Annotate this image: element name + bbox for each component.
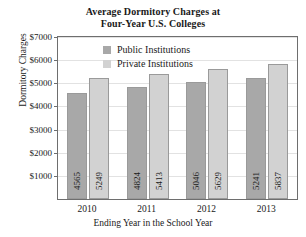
bar[interactable]: 5046 (186, 82, 206, 199)
x-axis-tick-label: 2013 (257, 204, 276, 214)
bar[interactable]: 5249 (89, 78, 109, 199)
bar-value-label: 5241 (251, 172, 261, 190)
y-axis-tick (54, 83, 58, 84)
y-axis-tick (54, 37, 58, 38)
legend-swatch-public (103, 46, 111, 54)
y-axis-tick-label: $2000 (30, 148, 53, 158)
y-axis-tick-label: $6000 (30, 55, 53, 65)
legend-label-public: Public Institutions (117, 44, 190, 55)
x-axis-tick-label: 2011 (137, 204, 156, 214)
chart-legend: Public Institutions Private Institutions (103, 43, 193, 71)
bar-group: 52415837 (237, 37, 297, 199)
bar-value-label: 4565 (72, 172, 82, 190)
x-axis-tick-label: 2012 (197, 204, 216, 214)
bar-value-label: 4824 (132, 172, 142, 190)
legend-swatch-private (103, 60, 111, 68)
bar-value-label: 5837 (273, 172, 283, 190)
bar[interactable]: 4824 (127, 87, 147, 199)
y-axis-tick-label: $5000 (30, 78, 53, 88)
bar[interactable]: 5629 (208, 69, 228, 199)
bar-value-label: 5413 (154, 172, 164, 190)
bar[interactable]: 4565 (67, 93, 87, 199)
y-axis-tick-label: $4000 (30, 101, 53, 111)
bar-value-label: 5046 (191, 172, 201, 190)
chart-title: Average Dormitory Charges at Four-Year U… (0, 6, 306, 29)
y-axis-tick-label: $3000 (30, 125, 53, 135)
legend-label-private: Private Institutions (117, 58, 193, 69)
y-axis-title: Dormitory Charges (18, 0, 28, 140)
chart-figure: Average Dormitory Charges at Four-Year U… (0, 0, 306, 237)
legend-item-public: Public Institutions (103, 43, 193, 56)
bar-value-label: 5249 (94, 172, 104, 190)
y-axis-tick (54, 153, 58, 154)
y-axis-tick-label: $1000 (30, 171, 53, 181)
y-axis-tick (54, 60, 58, 61)
y-axis-tick-label: $7000 (30, 32, 53, 42)
chart-title-line-1: Average Dormitory Charges at (0, 6, 306, 18)
bar-value-label: 5629 (213, 172, 223, 190)
bar[interactable]: 5837 (268, 64, 288, 199)
plot-area: 45655249482454135046562952415837 Public … (57, 36, 298, 200)
bar[interactable]: 5413 (149, 74, 169, 199)
chart-title-line-2: Four-Year U.S. Colleges (0, 18, 306, 30)
legend-item-private: Private Institutions (103, 57, 193, 70)
x-axis-title: Ending Year in the School Year (0, 218, 306, 228)
y-axis-tick (54, 176, 58, 177)
y-axis-tick (54, 130, 58, 131)
bar[interactable]: 5241 (246, 78, 266, 199)
x-axis-tick-label: 2010 (77, 204, 96, 214)
y-axis-tick (54, 106, 58, 107)
